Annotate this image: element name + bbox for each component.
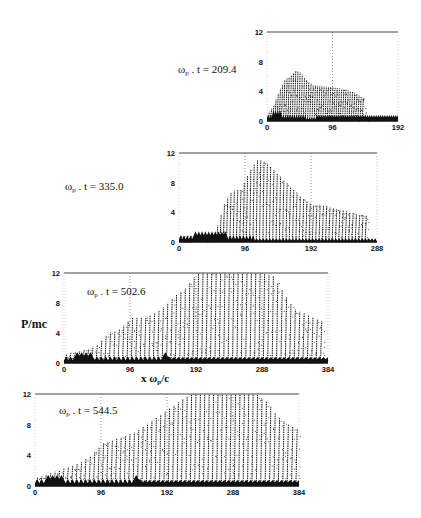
svg-text:96: 96 xyxy=(97,488,105,497)
svg-text:4: 4 xyxy=(27,451,32,460)
svg-text:288: 288 xyxy=(227,488,240,497)
svg-text:192: 192 xyxy=(161,488,174,497)
svg-text:12: 12 xyxy=(23,390,31,399)
svg-text:0: 0 xyxy=(33,488,37,497)
time-label-panel-4: ωp . t = 544.5 xyxy=(59,404,118,418)
svg-text:0: 0 xyxy=(27,482,31,491)
svg-text:384: 384 xyxy=(293,488,306,497)
phase-space-panel-4: 04812096192288384 xyxy=(0,0,421,518)
svg-text:8: 8 xyxy=(27,421,31,430)
plot-area-panel-4: 04812096192288384 xyxy=(0,0,421,518)
